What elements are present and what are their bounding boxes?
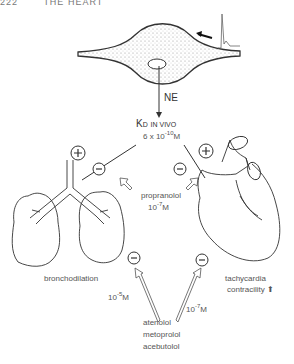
minus-icon-heart-selective <box>196 254 208 266</box>
bronchodilation-label: bronchodilation <box>44 274 98 283</box>
kd-title: KD IN VIVO <box>136 118 176 129</box>
kd-k: K <box>136 118 143 129</box>
lungs-illustration <box>12 160 124 266</box>
conc-base: 10 <box>148 203 157 212</box>
lung-selective-concentration: 10-5M <box>108 291 129 302</box>
plus-icon-heart <box>199 144 213 158</box>
selective-blocker-arrows <box>135 268 201 322</box>
propranolol-arrows <box>120 178 198 190</box>
propranolol-label: propranolol <box>141 191 181 200</box>
drug-atenolol: atenolol <box>143 318 171 327</box>
conc-base: 10 <box>186 305 195 314</box>
conc-unit: M <box>200 305 207 314</box>
contractility-text: contracility <box>227 285 265 294</box>
minus-icon-lung-selective <box>128 252 140 264</box>
conc-base: 10 <box>108 293 117 302</box>
diagram-artwork <box>0 0 294 364</box>
heart-selective-concentration: 10-7M <box>186 303 207 314</box>
kd-value: 6 x 10-10M <box>143 130 180 141</box>
ne-to-lung-arrow <box>82 145 136 180</box>
minus-icon-lung-propranolol <box>93 163 105 175</box>
kd-d: D <box>143 121 148 128</box>
kd-value-unit: M <box>173 132 180 141</box>
contractility-label: contracility ⬆ <box>227 285 274 294</box>
up-arrow-icon: ⬆ <box>267 285 274 294</box>
minus-icon-heart-propranolol <box>174 163 186 175</box>
tachycardia-label: tachycardia <box>225 274 266 283</box>
drug-metoprolol: metoprolol <box>143 330 180 339</box>
kd-in-vivo: IN VIVO <box>151 121 177 128</box>
conc-unit: M <box>162 203 169 212</box>
plus-icon-lung <box>71 146 85 160</box>
propranolol-concentration: 10-7M <box>148 201 169 212</box>
drug-acebutolol: acebutolol <box>143 342 179 351</box>
ne-label: NE <box>164 92 178 103</box>
kd-value-prefix: 6 x 10 <box>143 132 165 141</box>
conc-unit: M <box>122 293 129 302</box>
